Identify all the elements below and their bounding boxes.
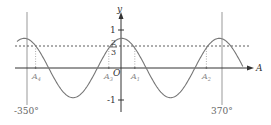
fraction-denominator: 3 (111, 48, 116, 57)
cosine-graph: y A O 1 -1 2 3 -350° 370° A4 A3 A1 A2 (0, 0, 271, 125)
a4-point (35, 67, 37, 69)
a4-label: A4 (31, 72, 41, 82)
a2-label: A2 (201, 72, 211, 82)
tick-neg-one-label: -1 (107, 95, 116, 105)
x-axis-arrow-icon (247, 66, 254, 71)
a3-point (108, 67, 110, 69)
origin-label: O (113, 68, 121, 78)
tick-one-label: 1 (110, 25, 116, 35)
fraction-numerator: 2 (111, 38, 116, 47)
a2-point (206, 67, 208, 69)
a1-label: A1 (130, 72, 140, 82)
a3-label: A3 (103, 72, 113, 82)
left-bound-label: -350° (14, 106, 39, 116)
a1-point (134, 67, 136, 69)
y-axis-label: y (116, 4, 123, 14)
x-axis-label: A (255, 63, 263, 73)
right-bound-label: 370° (211, 106, 233, 116)
